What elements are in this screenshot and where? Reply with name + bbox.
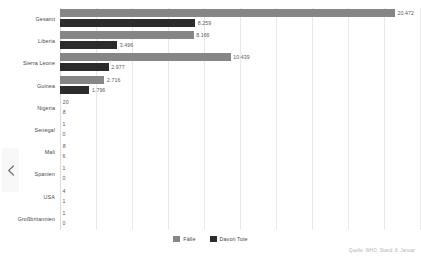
bar-row: 10: [60, 163, 420, 185]
bar-deaths[interactable]: [60, 19, 195, 27]
bar-value-label: 3.496: [120, 41, 133, 49]
category-label: Großbritannien: [3, 208, 55, 230]
category-axis: GesamtLiberiaSierra LeoneGuineaNigeriaSe…: [0, 8, 55, 230]
bar-cases[interactable]: [60, 31, 194, 39]
legend-label: Davon Tote: [220, 236, 248, 242]
carousel-prev-button[interactable]: [2, 148, 19, 192]
bar-rows: 20.4728.2598.1663.49610.4392.9772.7161.7…: [60, 8, 420, 230]
category-label: Gesamt: [3, 8, 55, 30]
bar-value-label: 1: [63, 120, 66, 128]
bar-deaths[interactable]: [60, 86, 89, 94]
bar-deaths[interactable]: [60, 41, 117, 49]
bar-value-label: 1: [63, 209, 66, 217]
bar-cases[interactable]: [60, 9, 395, 17]
legend-item[interactable]: Davon Tote: [210, 236, 248, 242]
bar-value-label: 2.716: [107, 76, 120, 84]
bar-deaths[interactable]: [60, 63, 109, 71]
bar-value-label: 4: [63, 187, 66, 195]
bar-value-label: 1: [63, 164, 66, 172]
bar-value-label: 6: [63, 152, 66, 160]
legend-swatch: [210, 236, 217, 242]
bar-value-label: 2.977: [111, 63, 124, 71]
bar-cases[interactable]: [60, 53, 231, 61]
bar-value-label: 0: [63, 219, 66, 227]
bar-value-label: 0: [63, 174, 66, 182]
bar-row: 20.4728.259: [60, 8, 420, 30]
category-label: Nigeria: [3, 97, 55, 119]
bar-value-label: 8: [63, 142, 66, 150]
plot-area: 20.4728.2598.1663.49610.4392.9772.7161.7…: [60, 8, 420, 230]
bar-value-label: 1: [63, 197, 66, 205]
legend-swatch: [173, 236, 180, 242]
bar-value-label: 8: [63, 108, 66, 116]
chevron-left-icon: [7, 165, 15, 176]
bar-value-label: 10.439: [233, 53, 249, 61]
bar-row: 2.7161.796: [60, 75, 420, 97]
bar-row: 86: [60, 141, 420, 163]
legend-label: Fälle: [183, 236, 195, 242]
category-label: Guinea: [3, 75, 55, 97]
bar-value-label: 8.166: [196, 31, 209, 39]
source-note: Quelle: WHO, Stand: 8. Januar: [349, 248, 415, 253]
bar-row: 10.4392.977: [60, 52, 420, 74]
bar-value-label: 20.472: [397, 9, 413, 17]
bar-row: 41: [60, 186, 420, 208]
bar-value-label: 20: [63, 98, 69, 106]
bar-value-label: 1.796: [92, 86, 105, 94]
bar-value-label: 8.259: [198, 19, 211, 27]
bar-row: 8.1663.496: [60, 30, 420, 52]
ebola-bar-chart: GesamtLiberiaSierra LeoneGuineaNigeriaSe…: [0, 0, 421, 261]
category-label: Sierra Leone: [3, 52, 55, 74]
legend-item[interactable]: Fälle: [173, 236, 195, 242]
bar-row: 208: [60, 97, 420, 119]
bar-row: 10: [60, 208, 420, 230]
bar-row: 10: [60, 119, 420, 141]
category-label: Senegal: [3, 119, 55, 141]
chart-legend: FälleDavon Tote: [0, 236, 421, 242]
bar-value-label: 0: [63, 130, 66, 138]
bar-cases[interactable]: [60, 76, 104, 84]
category-label: Liberia: [3, 30, 55, 52]
